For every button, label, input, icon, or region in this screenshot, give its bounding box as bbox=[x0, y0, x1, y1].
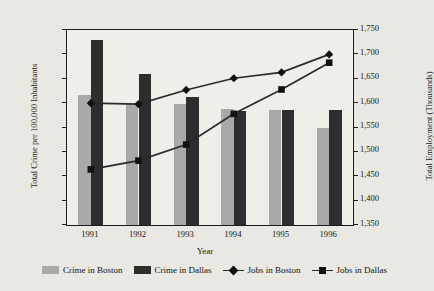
marker-jobs-in-boston-1993 bbox=[182, 86, 190, 94]
y-axis-right-tick-mark bbox=[354, 53, 358, 54]
legend-item-jobs-in-dallas[interactable]: Jobs in Dallas bbox=[312, 265, 388, 275]
legend-item-crime-in-boston[interactable]: Crime in Boston bbox=[42, 265, 123, 275]
y-axis-right-tick-label: 1,450 bbox=[360, 170, 420, 179]
y-axis-right-tick-mark bbox=[354, 200, 358, 201]
y-axis-right-tick-mark bbox=[354, 224, 358, 225]
y-axis-right-tick-label: 1,600 bbox=[360, 97, 420, 106]
marker-jobs-in-boston-1992 bbox=[134, 100, 142, 108]
y-axis-right-tick-label: 1,400 bbox=[360, 194, 420, 203]
y-axis-right-tick-mark bbox=[354, 127, 358, 128]
legend-label: Jobs in Boston bbox=[248, 265, 301, 275]
x-axis-tick-label: 1995 bbox=[257, 229, 305, 239]
y-axis-right-title: Total Employment (Thousands) bbox=[424, 26, 434, 226]
marker-jobs-in-boston-1995 bbox=[277, 68, 285, 76]
legend-label: Crime in Boston bbox=[63, 265, 123, 275]
marker-jobs-in-boston-1996 bbox=[325, 50, 333, 58]
x-axis-title: Year bbox=[60, 246, 350, 256]
y-axis-right-tick-label: 1,750 bbox=[360, 24, 420, 33]
y-axis-right-tick-mark bbox=[354, 175, 358, 176]
marker-jobs-in-dallas-1993 bbox=[183, 141, 190, 148]
marker-jobs-in-boston-1994 bbox=[230, 74, 238, 82]
y-axis-right-tick-mark bbox=[354, 151, 358, 152]
line-jobs-in-boston bbox=[91, 54, 329, 104]
legend-label: Jobs in Dallas bbox=[337, 265, 388, 275]
marker-jobs-in-dallas-1996 bbox=[326, 59, 333, 66]
marker-jobs-in-dallas-1992 bbox=[135, 157, 142, 164]
line-layer bbox=[67, 30, 353, 225]
y-axis-left-title: Total Crime per 100,000 Inhabitants bbox=[29, 26, 39, 226]
legend-line-diamond-icon bbox=[223, 266, 244, 275]
legend-label: Crime in Dallas bbox=[155, 265, 212, 275]
diamond-marker-icon bbox=[228, 266, 238, 276]
legend-swatch-dark-icon bbox=[134, 266, 151, 274]
y-axis-right-tick-label: 1,350 bbox=[360, 219, 420, 228]
x-axis-tick-label: 1991 bbox=[66, 229, 114, 239]
x-axis-tick-label: 1993 bbox=[161, 229, 209, 239]
line-jobs-in-dallas bbox=[91, 63, 329, 170]
legend-swatch-light-icon bbox=[42, 266, 59, 274]
chart-legend: Crime in BostonCrime in DallasJobs in Bo… bbox=[0, 265, 429, 275]
x-axis-tick-label: 1994 bbox=[209, 229, 257, 239]
x-axis-tick-label: 1996 bbox=[304, 229, 352, 239]
marker-jobs-in-boston-1991 bbox=[87, 99, 95, 107]
marker-jobs-in-dallas-1995 bbox=[278, 86, 285, 93]
legend-line-square-icon bbox=[312, 266, 333, 275]
plot-area bbox=[66, 29, 354, 226]
legend-item-jobs-in-boston[interactable]: Jobs in Boston bbox=[223, 265, 301, 275]
y-axis-right-tick-mark bbox=[354, 78, 358, 79]
y-axis-right-tick-label: 1,550 bbox=[360, 121, 420, 130]
x-axis-tick-label: 1992 bbox=[114, 229, 162, 239]
y-axis-right-tick-label: 1,500 bbox=[360, 145, 420, 154]
square-marker-icon bbox=[319, 267, 326, 274]
y-axis-right-tick-label: 1,700 bbox=[360, 48, 420, 57]
y-axis-right-tick-mark bbox=[354, 29, 358, 30]
y-axis-right-tick-mark bbox=[354, 102, 358, 103]
y-axis-right-tick-label: 1,650 bbox=[360, 72, 420, 81]
marker-jobs-in-dallas-1994 bbox=[231, 111, 238, 118]
marker-jobs-in-dallas-1991 bbox=[88, 166, 95, 173]
legend-item-crime-in-dallas[interactable]: Crime in Dallas bbox=[134, 265, 212, 275]
